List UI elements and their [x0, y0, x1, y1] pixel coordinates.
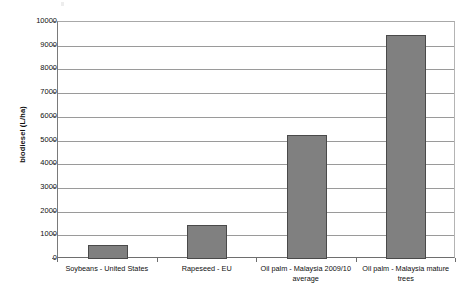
category-tick-mark [356, 258, 357, 262]
y-axis-tick-label: 9000 [9, 41, 57, 49]
bar [88, 245, 128, 259]
y-axis-tick-label: 7000 [9, 88, 57, 96]
scan-artifact [61, 2, 64, 6]
y-axis-tick-label: 10000 [9, 17, 57, 25]
y-axis-tick-label: 3000 [9, 183, 57, 191]
category-tick-mark [157, 258, 158, 262]
y-axis-tick-label: 1000 [9, 230, 57, 238]
category-tick-mark [57, 258, 58, 262]
plot-area [57, 21, 455, 258]
category-axis-label: Oil palm - Malaysia mature trees [357, 264, 455, 284]
y-axis-tick-mark [52, 187, 56, 188]
y-axis-tick-mark [52, 211, 56, 212]
y-axis-tick-label: 0 [9, 254, 57, 262]
bar-chart: biodiesel (L/ha) 01000200030004000500060… [0, 0, 471, 302]
category-axis-label: Soybeans - United States [58, 264, 156, 274]
y-axis-tick-label: 6000 [9, 112, 57, 120]
y-axis-tick-mark [52, 68, 56, 69]
y-axis-tick-label: 4000 [9, 159, 57, 167]
y-axis-tick-mark [52, 258, 56, 259]
category-axis-label: Oil palm - Malaysia 2009/10 average [257, 264, 355, 284]
y-axis-tick-mark [52, 21, 56, 22]
y-axis-tick-labels: 0100020003000400050006000700080009000100… [0, 0, 57, 302]
y-axis-tick-mark [52, 163, 56, 164]
y-axis-tick-mark [52, 92, 56, 93]
y-axis-tick-mark [52, 45, 56, 46]
y-axis-tick-label: 5000 [9, 136, 57, 144]
y-axis-tick-label: 2000 [9, 207, 57, 215]
y-axis-tick-mark [52, 234, 56, 235]
y-axis-tick-mark [52, 116, 56, 117]
category-tick-mark [455, 258, 456, 262]
bar [187, 225, 227, 259]
bar [386, 35, 426, 259]
bar [287, 135, 327, 259]
category-tick-mark [256, 258, 257, 262]
category-axis-label: Rapeseed - EU [158, 264, 256, 274]
y-axis-tick-label: 8000 [9, 64, 57, 72]
y-axis-tick-mark [52, 140, 56, 141]
